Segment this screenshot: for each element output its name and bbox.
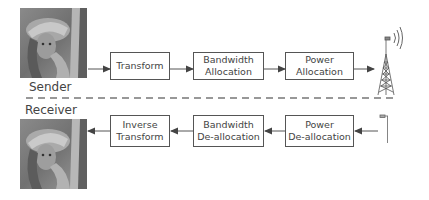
transmit-tower-icon	[378, 27, 403, 95]
receive-antenna-icon	[380, 115, 388, 143]
diagram-root: Sender Transform Bandwidth Allocation Po…	[0, 0, 429, 200]
connectors-layer	[0, 0, 429, 200]
